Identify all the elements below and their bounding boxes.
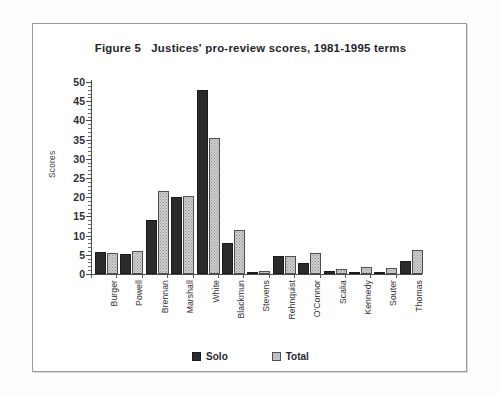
bar-solo[interactable] [120,254,131,274]
bar-group [298,82,321,274]
bar-total[interactable] [107,253,118,274]
y-axis-tick-minor [88,239,91,240]
x-axis-tick [269,274,270,278]
bar-solo[interactable] [349,272,360,274]
bar-total[interactable] [183,196,194,274]
bar-group [349,82,372,274]
x-axis-tick [116,274,117,278]
y-axis-tick-label: 30 [73,153,85,165]
y-axis-tick-minor [88,174,91,175]
y-axis-tick-major [86,178,91,179]
bar-total[interactable] [412,250,423,274]
x-axis-tick [142,274,143,278]
y-axis-tick-minor [88,132,91,133]
x-axis-tick-label: O'Connor [312,280,322,317]
y-axis-tick-minor [88,109,91,110]
figure-frame: Figure 5 Justices' pro-review scores, 19… [32,23,467,372]
bar-total[interactable] [361,267,372,274]
x-axis-tick [218,274,219,278]
x-axis-tick [294,274,295,278]
bar-total[interactable] [132,251,143,274]
y-axis-tick-major [86,140,91,141]
y-axis-tick-minor [88,251,91,252]
bar-total[interactable] [209,138,220,274]
x-axis-line [91,274,422,275]
y-axis-tick-minor [88,163,91,164]
x-axis-tick-label: Powell [134,280,144,306]
y-axis-tick-label: 35 [73,134,85,146]
bar-solo[interactable] [324,271,335,274]
x-axis-tick [91,274,92,278]
y-axis-tick-major [86,120,91,121]
y-axis-tick-major [86,236,91,237]
bar-group [197,82,220,274]
y-axis-tick-minor [88,205,91,206]
bar-total[interactable] [158,191,169,274]
y-axis-tick-minor [88,147,91,148]
legend-item-total: Total [272,351,309,362]
x-axis-tick-label: Rehnquist [287,280,297,320]
y-axis-tick-minor [88,113,91,114]
bar-total[interactable] [285,256,296,274]
bar-group [120,82,143,274]
x-axis-tick-label: Souter [388,280,398,306]
chart-legend: Solo Total [33,351,468,362]
y-axis-tick-minor [88,228,91,229]
bar-group [400,82,423,274]
bar-group [222,82,245,274]
y-axis-title: Scores [47,151,57,178]
x-axis-tick [345,274,346,278]
x-axis-tick-label: Burger [109,280,119,306]
x-axis-tick-label: White [211,280,221,302]
x-axis-tick [396,274,397,278]
bar-solo[interactable] [146,220,157,274]
bar-solo[interactable] [247,272,258,274]
legend-label-solo: Solo [206,351,228,362]
bar-group [324,82,347,274]
bar-total[interactable] [310,253,321,275]
y-axis-tick-major [86,197,91,198]
y-axis-tick-minor [88,90,91,91]
y-axis-tick-minor [88,124,91,125]
y-axis-tick-minor [88,94,91,95]
y-axis-tick-minor [88,213,91,214]
x-axis-tick [243,274,244,278]
bar-solo[interactable] [273,256,284,274]
legend-label-total: Total [286,351,309,362]
bar-total[interactable] [234,230,245,274]
bar-solo[interactable] [95,252,106,274]
bar-solo[interactable] [171,197,182,274]
bar-solo[interactable] [400,261,411,274]
y-axis-tick-minor [88,155,91,156]
page-title: Figure 5 Justices' pro-review scores, 19… [33,42,468,54]
x-axis-tick-label: Scalia [338,280,348,304]
y-axis-tick-minor [88,182,91,183]
y-axis-tick-minor [88,117,91,118]
y-axis-tick-minor [88,97,91,98]
bar-solo[interactable] [222,243,233,274]
y-axis-tick-major [86,159,91,160]
y-axis-tick-minor [88,128,91,129]
figure-root: Figure 5 Justices' pro-review scores, 19… [0,0,499,396]
y-axis-tick-minor [88,166,91,167]
y-axis-tick-minor [88,247,91,248]
bar-solo[interactable] [374,272,385,274]
y-axis-tick-minor [88,151,91,152]
y-axis-tick-minor [88,186,91,187]
y-axis-tick-label: 15 [73,210,85,222]
x-axis-tick [320,274,321,278]
bar-solo[interactable] [197,90,208,274]
y-axis-tick-minor [88,136,91,137]
bar-group [146,82,169,274]
y-axis-tick-minor [88,209,91,210]
solo-swatch-icon [192,352,201,361]
bar-group [171,82,194,274]
x-axis-tick [370,274,371,278]
bar-solo[interactable] [298,263,309,274]
y-axis-tick-label: 45 [73,95,85,107]
bar-group [273,82,296,274]
x-axis-tick-label: Kennedy [363,280,373,315]
y-axis-tick-label: 20 [73,191,85,203]
y-axis-tick-label: 5 [79,249,85,261]
bar-group [95,82,118,274]
